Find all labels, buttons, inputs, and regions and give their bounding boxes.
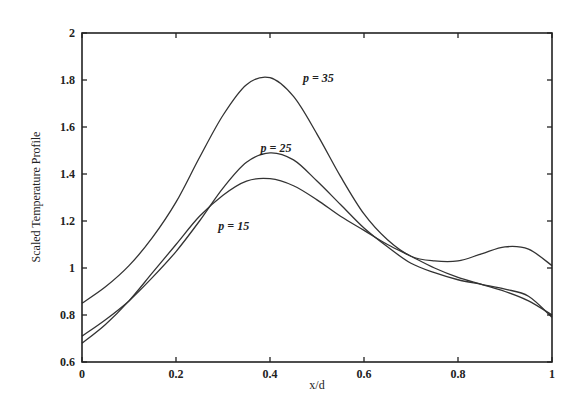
- y-tick-label: 2: [69, 26, 75, 40]
- series-line-p15: [82, 178, 552, 343]
- curve-labels: p = 35p = 25p = 15: [217, 71, 333, 233]
- x-tick-label: 0: [79, 367, 85, 381]
- x-tick-label: 1: [549, 367, 555, 381]
- x-axis-label: x/d: [309, 378, 324, 392]
- y-tick-label: 0.6: [60, 355, 75, 369]
- x-tick-label: 0.4: [263, 367, 278, 381]
- series-line-p35: [82, 77, 552, 303]
- y-tick-label: 1.4: [60, 167, 75, 181]
- y-axis-label: Scaled Temperature Profile: [29, 132, 43, 263]
- y-tick-label: 0.8: [60, 308, 75, 322]
- y-tick-labels: 0.60.811.21.41.61.82: [60, 26, 75, 369]
- line-chart: 00.20.40.60.81 0.60.811.21.41.61.82 x/d …: [0, 0, 581, 409]
- x-tick-label: 0.6: [357, 367, 372, 381]
- x-tick-label: 0.2: [169, 367, 184, 381]
- plot-curves: [82, 77, 552, 343]
- curve-label: p = 15: [217, 219, 249, 233]
- x-tick-label: 0.8: [451, 367, 466, 381]
- curve-label: p = 25: [260, 141, 292, 155]
- y-tick-label: 1.6: [60, 120, 75, 134]
- series-line-p25: [82, 153, 552, 336]
- curve-label: p = 35: [302, 71, 334, 85]
- y-tick-label: 1: [69, 261, 75, 275]
- y-tick-label: 1.8: [60, 73, 75, 87]
- y-tick-label: 1.2: [60, 214, 75, 228]
